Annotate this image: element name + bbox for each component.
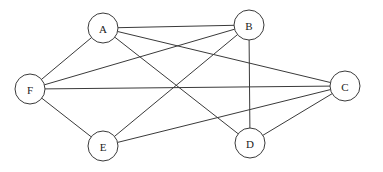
- node-d: D: [235, 128, 265, 158]
- node-e: E: [88, 131, 118, 161]
- edge-a-b: [118, 25, 234, 27]
- node-label: D: [246, 138, 254, 150]
- graph-diagram: ABCDEF: [0, 0, 383, 172]
- edge-e-c: [118, 90, 331, 143]
- node-label: C: [341, 81, 348, 93]
- node-f: F: [15, 74, 45, 104]
- nodes-layer: ABCDEF: [15, 10, 360, 161]
- node-label: B: [245, 20, 252, 32]
- node-label: E: [100, 141, 107, 153]
- edge-f-b: [44, 29, 234, 85]
- node-b: B: [234, 10, 264, 40]
- edge-a-c: [118, 32, 331, 83]
- node-label: A: [99, 23, 107, 35]
- edge-f-c: [45, 86, 330, 89]
- node-c: C: [330, 71, 360, 101]
- edge-f-e: [42, 98, 91, 137]
- node-label: F: [27, 84, 33, 96]
- edge-b-d: [249, 40, 250, 128]
- edges-layer: [42, 25, 333, 142]
- edge-e-b: [115, 35, 238, 137]
- edge-d-c: [263, 94, 332, 136]
- node-a: A: [88, 13, 118, 43]
